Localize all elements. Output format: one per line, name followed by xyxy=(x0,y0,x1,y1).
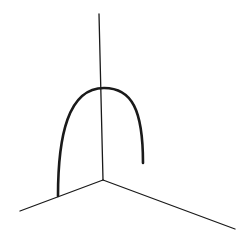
vertical-axis xyxy=(99,14,103,180)
diagram-canvas xyxy=(0,0,240,247)
right-axis xyxy=(103,180,235,229)
left-axis xyxy=(20,180,103,211)
axes-diagram xyxy=(0,0,240,247)
arc-curve xyxy=(58,88,143,196)
